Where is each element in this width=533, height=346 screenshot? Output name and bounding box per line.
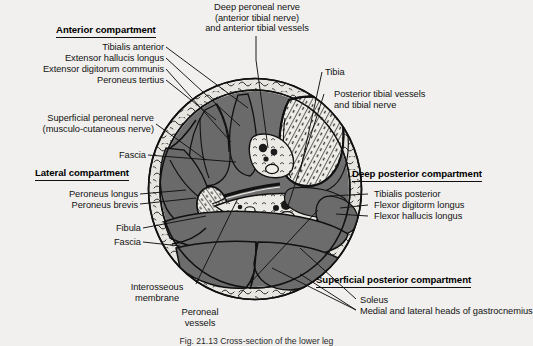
label-posterior-tibial-vessels-line1: Posterior tibial vessels xyxy=(334,89,425,100)
heading-deep-posterior-compartment: Deep posterior compartment xyxy=(352,168,482,182)
label-gastrocnemius-heads: Medial and lateral heads of gastrocnemiu… xyxy=(360,306,533,317)
label-peroneus-longus: Peroneus longus xyxy=(0,189,138,200)
label-tibia: Tibia xyxy=(325,67,345,78)
label-extensor-digitorum-communis: Extensor digitorum communis xyxy=(0,64,164,75)
heading-anterior-compartment-text: Anterior compartment xyxy=(56,24,156,35)
heading-superficial-posterior-compartment-text: Superficial posterior compartment xyxy=(316,274,471,285)
heading-underline xyxy=(56,37,156,39)
heading-anterior-compartment: Anterior compartment xyxy=(56,24,156,38)
label-deep-peroneal-nerve-line1: Deep peroneal nerve xyxy=(186,2,328,13)
label-superficial-peroneal-nerve-line2: (musculo-cutaneous nerve) xyxy=(0,124,154,135)
label-fibula: Fibula xyxy=(0,223,141,234)
label-interosseous-membrane: Interosseous membrane xyxy=(118,282,196,303)
label-tibialis-posterior: Tibialis posterior xyxy=(374,189,440,200)
heading-deep-posterior-compartment-text: Deep posterior compartment xyxy=(352,168,482,179)
label-peroneus-tertius: Peroneus tertius xyxy=(0,75,164,86)
label-flexor-digitorum-longus: Flexor digitorm longus xyxy=(374,200,464,211)
heading-underline xyxy=(35,180,129,182)
label-tibialis-anterior: Tibialis anterior xyxy=(0,42,164,53)
heading-underline xyxy=(316,287,471,289)
label-soleus: Soleus xyxy=(360,295,388,306)
label-fascia-lower: Fascia xyxy=(0,237,141,248)
label-deep-peroneal-nerve-line3: and anterior tibial vessels xyxy=(186,23,328,34)
heading-lateral-compartment-text: Lateral compartment xyxy=(35,167,129,178)
label-flexor-hallucis-longus: Flexor hallucis longus xyxy=(374,211,462,222)
heading-superficial-posterior-compartment: Superficial posterior compartment xyxy=(316,274,471,288)
label-peroneal-vessels-line2: vessels xyxy=(162,318,238,329)
figure-caption: Fig. 21.13 Cross-section of the lower le… xyxy=(0,336,513,346)
label-deep-peroneal-nerve-line2: (anterior tibial nerve) xyxy=(186,13,328,24)
label-peroneal-vessels: Peroneal vessels xyxy=(162,307,238,328)
label-fascia-upper: Fascia xyxy=(0,150,146,161)
label-superficial-peroneal-nerve: Superficial peroneal nerve (musculo-cuta… xyxy=(0,113,154,134)
heading-underline xyxy=(352,181,482,183)
label-superficial-peroneal-nerve-line1: Superficial peroneal nerve xyxy=(0,113,154,124)
label-deep-peroneal-nerve: Deep peroneal nerve (anterior tibial ner… xyxy=(186,2,328,34)
label-peroneal-vessels-line1: Peroneal xyxy=(162,307,238,318)
heading-lateral-compartment: Lateral compartment xyxy=(35,167,129,181)
label-interosseous-membrane-line1: Interosseous xyxy=(118,282,196,293)
label-posterior-tibial-vessels: Posterior tibial vessels and tibial nerv… xyxy=(334,89,425,110)
label-peroneus-brevis: Peroneus brevis xyxy=(0,200,138,211)
label-posterior-tibial-vessels-line2: and tibial nerve xyxy=(334,100,425,111)
label-interosseous-membrane-line2: membrane xyxy=(118,293,196,304)
label-extensor-hallucis-longus: Extensor hallucis longus xyxy=(0,53,164,64)
